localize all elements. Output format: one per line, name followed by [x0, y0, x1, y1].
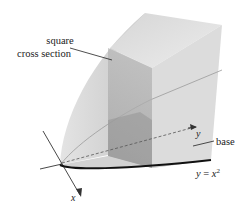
x-axis-arrowhead: [76, 188, 82, 197]
label-curve-equation: y = x2: [195, 167, 221, 179]
cross-section-leader: [70, 48, 112, 60]
equation-equals: =: [201, 168, 212, 179]
label-axis-y: y: [195, 128, 201, 139]
label-square: square: [46, 35, 74, 46]
origin-tick: [40, 164, 62, 169]
solid-diagram: square cross section base y x y = x2: [0, 0, 249, 205]
equation-exponent: 2: [217, 167, 221, 175]
label-axis-x: x: [70, 192, 76, 203]
label-cross-section: cross section: [17, 48, 72, 59]
label-base: base: [216, 136, 235, 147]
